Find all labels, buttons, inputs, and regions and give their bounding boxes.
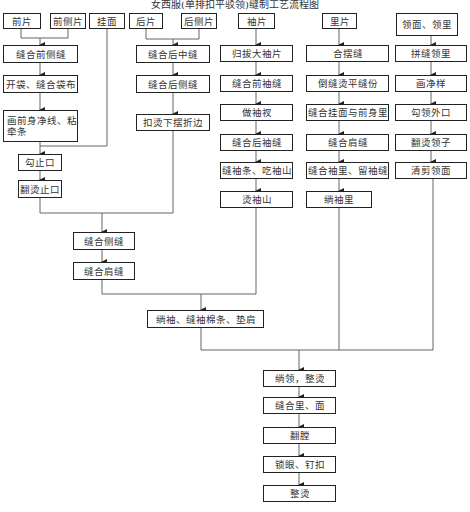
step-mark-front-lines: 画前身净线、粘牵条 <box>3 110 78 142</box>
step-sew-back-sleeve-seam: 缝合后袖缝 <box>220 134 293 151</box>
step-press-seam-allowance: 倒缝烫平缝份 <box>306 75 389 92</box>
step-turn-out: 翻膛 <box>263 427 336 444</box>
step-sew-shoulder-seams: 缝合肩缝 <box>73 262 135 280</box>
input-facing: 挂面 <box>89 13 125 29</box>
step-sew-side-seams: 缝合侧缝 <box>73 232 135 250</box>
step-attach-sleeves: 绱袖、缝袖棉条、垫肩 <box>147 310 264 328</box>
step-press-front-edge: 翻烫止口 <box>18 180 62 198</box>
step-sew-back-center-seam: 缝合后中缝 <box>136 45 210 63</box>
step-stitch-front-edge: 勾止口 <box>18 154 62 171</box>
step-sew-lining-shoulder: 缝合肩缝 <box>306 134 389 151</box>
step-press-hem: 扣烫下摆折边 <box>136 114 210 131</box>
step-buttonholes-buttons: 锁眼、钉扣 <box>263 456 336 473</box>
step-trim-top-collar: 清剪领面 <box>395 162 467 179</box>
step-sew-back-side-seam: 缝合后侧缝 <box>136 75 210 93</box>
step-sew-front-sleeve-seam: 缝合前袖缝 <box>220 75 293 92</box>
step-ease-sleeve-cap: 缝袖条、吃袖山 <box>220 162 293 179</box>
step-mark-collar: 画净样 <box>395 75 467 92</box>
step-press-collar: 翻烫领子 <box>395 134 467 151</box>
step-make-pocket: 开袋、缝合袋布 <box>3 75 78 93</box>
step-attach-collar-press: 绱领，整烫 <box>263 370 336 387</box>
input-back-side-piece: 后侧片 <box>181 13 217 29</box>
input-collar-pieces: 领面、领里 <box>396 13 458 36</box>
input-lining-piece: 里片 <box>322 13 357 29</box>
step-sew-facing-to-lining: 缝合挂面与前身里 <box>306 104 389 121</box>
step-join-under-collar: 拼缝领里 <box>395 45 467 62</box>
step-join-lining-shell: 缝合里、面 <box>263 397 336 414</box>
input-front-side-piece: 前侧片 <box>50 13 86 29</box>
step-final-press: 整烫 <box>263 485 336 502</box>
step-press-sleeve-cap: 烫袖山 <box>220 191 293 208</box>
input-front-piece: 前片 <box>3 13 41 29</box>
step-sew-front-side-seam: 缝合前侧缝 <box>3 45 78 63</box>
step-join-lining-seams: 合摆缝 <box>306 45 389 62</box>
step-sew-sleeve-lining: 缝合袖里、留袖缝 <box>306 162 389 179</box>
step-attach-sleeve-lining: 绱袖里 <box>306 191 372 208</box>
input-back-piece: 后片 <box>129 13 163 29</box>
step-make-sleeve-vent: 做袖衩 <box>220 104 293 121</box>
step-stitch-collar-edge: 勾领外口 <box>395 104 467 121</box>
step-shape-top-sleeve: 归拔大袖片 <box>220 45 293 62</box>
input-sleeve-piece: 袖片 <box>238 13 275 29</box>
